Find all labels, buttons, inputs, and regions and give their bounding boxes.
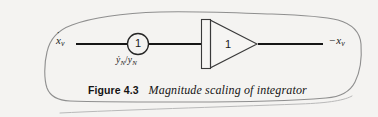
potentiometer-gain-label: ẏN/yN <box>116 55 137 66</box>
figure-caption-number: Figure 4.3 <box>88 84 139 96</box>
figure-diagram-canvas <box>0 0 378 117</box>
output-signal-label: −xv <box>329 34 345 48</box>
input-signal-subscript: v <box>61 39 65 48</box>
output-signal-subscript: v <box>341 39 345 48</box>
integrator-value-label: 1 <box>225 38 231 50</box>
input-dot-accent-icon: ˙ <box>57 31 60 41</box>
potentiometer-value-label: 1 <box>135 37 141 49</box>
figure-outline-secondary-line <box>60 96 352 113</box>
figure-page: x˙v 1 ẏN/yN 1 −xv Figure 4.3 Magnitude s… <box>0 0 378 117</box>
figure-caption: Figure 4.3 Magnitude scaling of integrat… <box>88 83 307 98</box>
figure-caption-title: Magnitude scaling of integrator <box>149 83 307 98</box>
gain-denominator-subscript: N <box>132 59 137 66</box>
gain-numerator-symbol: ẏ <box>116 55 120 65</box>
output-sign: − <box>329 34 335 46</box>
input-signal-symbol: x˙ <box>56 34 61 46</box>
integrator-capacitor-bar <box>202 20 211 69</box>
integrator-triangle <box>210 20 257 68</box>
output-signal-symbol: x <box>336 34 341 46</box>
input-signal-label: x˙v <box>56 34 65 48</box>
gain-denominator-symbol: y <box>128 55 132 65</box>
